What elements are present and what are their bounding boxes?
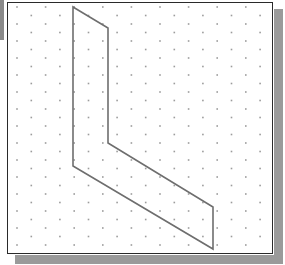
- grid-dot: [245, 23, 247, 25]
- grid-dot: [245, 227, 247, 229]
- grid-dot: [216, 74, 218, 76]
- grid-dot: [202, 66, 204, 68]
- grid-dot: [116, 117, 118, 119]
- grid-dot: [31, 151, 33, 153]
- grid-dot: [259, 134, 261, 136]
- grid-dot: [16, 57, 18, 59]
- grid-dot: [216, 40, 218, 42]
- grid-dot: [202, 83, 204, 85]
- grid-dot: [145, 83, 147, 85]
- grid-dot: [259, 66, 261, 68]
- grid-dot: [59, 202, 61, 204]
- grid-dot: [116, 49, 118, 51]
- grid-dot: [102, 142, 104, 144]
- grid-dot: [188, 244, 190, 246]
- grid-dot: [188, 142, 190, 144]
- grid-dot: [188, 125, 190, 127]
- grid-dot: [188, 108, 190, 110]
- grid-dot: [131, 227, 133, 229]
- grid-dot: [231, 83, 233, 85]
- grid-dot: [245, 244, 247, 246]
- grid-dot: [145, 168, 147, 170]
- grid-dot: [174, 219, 176, 221]
- grid-dot: [116, 15, 118, 17]
- grid-dot: [159, 23, 161, 25]
- grid-dot: [202, 151, 204, 153]
- grid-dot: [116, 32, 118, 34]
- grid-dot: [102, 176, 104, 178]
- grid-dot: [131, 142, 133, 144]
- grid-dot: [145, 49, 147, 51]
- grid-dot: [31, 168, 33, 170]
- grid-dot: [45, 210, 47, 212]
- grid-dot: [16, 74, 18, 76]
- grid-dot: [231, 185, 233, 187]
- grid-dot: [88, 168, 90, 170]
- grid-dot: [102, 74, 104, 76]
- grid-dot: [216, 125, 218, 127]
- grid-dot: [131, 244, 133, 246]
- grid-dot: [59, 117, 61, 119]
- grid-dot: [31, 236, 33, 238]
- grid-dot: [159, 176, 161, 178]
- grid-dot: [45, 108, 47, 110]
- grid-dot: [116, 202, 118, 204]
- grid-dot: [59, 168, 61, 170]
- grid-dot: [231, 202, 233, 204]
- grid-dot: [45, 176, 47, 178]
- grid-dot: [216, 142, 218, 144]
- grid-dot: [31, 117, 33, 119]
- grid-dot: [174, 202, 176, 204]
- grid-dot: [188, 210, 190, 212]
- grid-dot: [88, 219, 90, 221]
- grid-dot: [16, 210, 18, 212]
- grid-dot: [131, 176, 133, 178]
- grid-dot: [245, 91, 247, 93]
- grid-dot: [159, 210, 161, 212]
- grid-dot: [159, 40, 161, 42]
- grid-dot: [45, 142, 47, 144]
- grid-dot: [245, 6, 247, 8]
- grid-dot: [59, 83, 61, 85]
- grid-dot: [174, 15, 176, 17]
- grid-dot: [16, 108, 18, 110]
- grid-dot: [259, 151, 261, 153]
- grid-dot: [88, 134, 90, 136]
- isometric-dot-grid: [16, 6, 261, 246]
- grid-dot: [259, 83, 261, 85]
- grid-dot: [116, 100, 118, 102]
- grid-dot: [245, 159, 247, 161]
- grid-dot: [31, 202, 33, 204]
- grid-dot: [16, 6, 18, 8]
- grid-dot: [131, 40, 133, 42]
- grid-dot: [45, 57, 47, 59]
- grid-dot: [45, 91, 47, 93]
- grid-dot: [16, 244, 18, 246]
- grid-dot: [216, 91, 218, 93]
- grid-dot: [231, 49, 233, 51]
- grid-dot: [245, 40, 247, 42]
- grid-dot: [174, 185, 176, 187]
- grid-dot: [45, 23, 47, 25]
- grid-dot: [174, 49, 176, 51]
- grid-dot: [145, 151, 147, 153]
- grid-dot: [216, 244, 218, 246]
- grid-dot: [216, 227, 218, 229]
- grid-dot: [116, 236, 118, 238]
- grid-dot: [31, 219, 33, 221]
- grid-dot: [188, 23, 190, 25]
- grid-dot: [73, 244, 75, 246]
- grid-dot: [116, 66, 118, 68]
- grid-dot: [202, 168, 204, 170]
- grid-dot: [145, 117, 147, 119]
- grid-dot: [231, 151, 233, 153]
- grid-dot: [31, 185, 33, 187]
- grid-dot: [59, 219, 61, 221]
- grid-dot: [159, 244, 161, 246]
- grid-dot: [231, 66, 233, 68]
- grid-dot: [259, 117, 261, 119]
- grid-dot: [131, 91, 133, 93]
- grid-dot: [259, 185, 261, 187]
- grid-dot: [59, 32, 61, 34]
- grid-dot: [159, 6, 161, 8]
